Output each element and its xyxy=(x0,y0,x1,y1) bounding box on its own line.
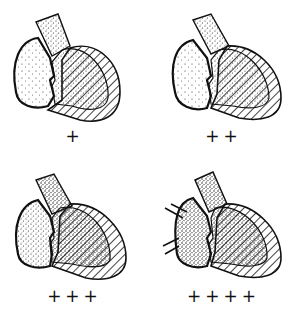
panel-grade-2: ++ xyxy=(149,0,298,158)
left-atrium xyxy=(175,198,211,267)
grade-label: + xyxy=(0,126,149,146)
panel-grade-1: + xyxy=(0,0,149,158)
grade-label: ++++ xyxy=(149,286,298,306)
left-atrium xyxy=(173,40,211,109)
panel-grade-4: ++++ xyxy=(149,158,298,316)
grade-label: ++ xyxy=(149,126,298,146)
panel-grade-3: +++ xyxy=(0,158,149,316)
grade-label: +++ xyxy=(0,286,149,306)
left-atrium xyxy=(16,200,54,268)
